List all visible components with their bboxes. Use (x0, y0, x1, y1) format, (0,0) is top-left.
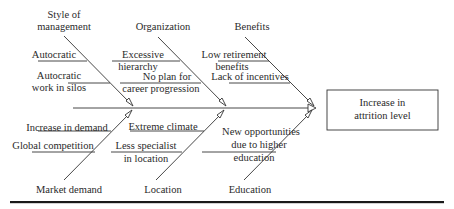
category-benefits: Benefits Low retirement benefits Lack of… (201, 21, 314, 106)
cause-extreme-climate: Extreme climate (128, 121, 197, 132)
bottom-rule-divider (10, 201, 444, 203)
cause-autocratic-work-line2: work in silos (32, 82, 86, 93)
category-label: Organization (136, 21, 191, 32)
category-label: Education (229, 184, 272, 195)
cause-increase-in-demand: Increase in demand (26, 122, 108, 133)
category-label: Benefits (235, 21, 270, 32)
cause-lack-of-incentives: Lack of incentives (211, 71, 289, 82)
cause-autocratic-work-line1: Autocratic (37, 70, 82, 81)
category-organization: Organization Excessive hierarchy No plan… (112, 21, 226, 106)
category-education: Education New opportunities due to highe… (202, 110, 312, 195)
cause-low-retirement-line1: Low retirement (201, 49, 266, 60)
cause-new-opportunities-line3: education (234, 152, 276, 163)
cause-excessive-hierarchy-line1: Excessive (122, 49, 164, 60)
cause-no-plan-line2: career progression (122, 83, 200, 94)
cause-no-plan-line1: No plan for (143, 71, 192, 82)
fishbone-diagram: Increase in attrition level Style of man… (0, 0, 454, 209)
bone-arrowhead-icon (126, 98, 133, 106)
cause-new-opportunities-line2: due to higher (231, 139, 287, 150)
category-market-demand: Market demand Increase in demand Global … (12, 110, 132, 195)
category-label-line2: management (37, 21, 91, 32)
category-label: Location (144, 184, 182, 195)
cause-global-competition: Global competition (12, 140, 94, 151)
cause-less-specialist-line2: in location (124, 153, 169, 164)
bone-arrowhead-icon (219, 98, 226, 106)
effect-label-line2: attrition level (354, 110, 410, 121)
category-label: Market demand (36, 184, 103, 195)
cause-new-opportunities-line1: New opportunities (222, 126, 300, 137)
cause-less-specialist-line1: Less specialist (116, 140, 177, 151)
category-location: Location Extreme climate Less specialist… (111, 110, 224, 195)
effect-label-line1: Increase in (360, 97, 407, 108)
category-style-of-management: Style of management Autocratic Autocrati… (32, 9, 133, 106)
category-label-line1: Style of (48, 9, 81, 20)
cause-autocratic: Autocratic (32, 49, 77, 60)
effect-box: Increase in attrition level (327, 90, 438, 130)
